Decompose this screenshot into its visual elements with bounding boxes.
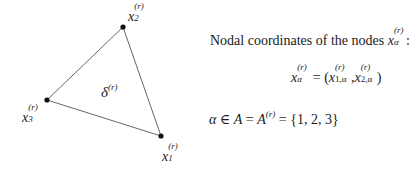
node-label-2-sub: 2 [134, 14, 139, 23]
node-label-1-sub: 1 [168, 154, 173, 163]
nodal-intro-var-sup: (r) [394, 26, 404, 35]
coord-term2-sup: (r) [361, 63, 371, 72]
index-set-a-r-base: A [257, 112, 266, 127]
coord-equals: = [313, 70, 321, 85]
coord-lhs-sub: α [297, 75, 302, 84]
coord-term2-sub: 2,α [361, 75, 372, 84]
node-label-2: x(r)2 [128, 10, 146, 24]
nodal-intro-label: Nodal coordinates of the nodes [210, 33, 384, 48]
edge-3-1 [47, 100, 161, 136]
node-label-3-sup: (r) [28, 103, 38, 112]
triangle-edges [47, 27, 161, 136]
node-3-dot [44, 97, 49, 102]
index-in-symbol: ∈ [220, 112, 230, 127]
node-label-1-sup: (r) [168, 142, 178, 151]
element-label-sup: (r) [108, 82, 118, 92]
index-set-a: A [234, 112, 243, 127]
coord-term1-sup: (r) [335, 63, 345, 72]
coord-close-paren: ) [377, 70, 382, 85]
node-1-dot [158, 133, 163, 138]
node-label-1: x(r)1 [162, 150, 180, 164]
node-label-2-sup: (r) [134, 2, 144, 11]
node-label-3-sub: 3 [28, 115, 33, 124]
coord-lhs-sup: (r) [297, 63, 307, 72]
index-set-values: {1, 2, 3} [290, 112, 338, 127]
node-2-dot [120, 24, 125, 29]
index-equals-1: = [246, 112, 254, 127]
node-label-3: x(r)3 [22, 111, 40, 125]
nodal-intro-colon: : [406, 33, 410, 48]
edge-1-2 [123, 27, 161, 136]
coord-term1-sub: 1,α [335, 75, 346, 84]
coordinates-formula: x(r)α = (x(r)1,α,x(r)2,α) [291, 71, 381, 85]
index-alpha: α [209, 112, 216, 127]
index-set-formula: α ∈ A = A(r) = {1, 2, 3} [209, 113, 339, 127]
nodal-intro-var-sub: α [394, 38, 399, 47]
element-label: δ(r) [101, 85, 117, 100]
element-label-base: δ [101, 84, 108, 100]
index-equals-2: = [279, 112, 287, 127]
nodal-intro-text: Nodal coordinates of the nodes x(r)α: [210, 34, 410, 48]
index-set-a-r-sup: (r) [266, 109, 276, 119]
